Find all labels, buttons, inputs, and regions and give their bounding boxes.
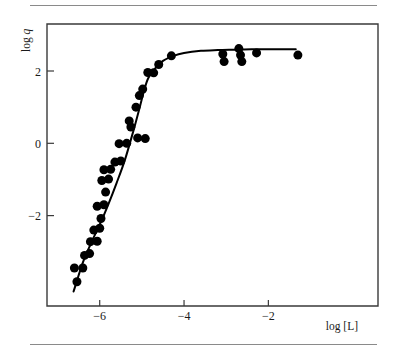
y-tick-label: −2 bbox=[28, 209, 41, 223]
data-point bbox=[78, 264, 87, 273]
data-point bbox=[126, 123, 135, 132]
plot-canvas: −6−4−2 20−2 log [L] log q bbox=[0, 0, 407, 355]
y-tick-label: 2 bbox=[35, 65, 41, 79]
x-tick-label: −4 bbox=[178, 309, 191, 323]
data-point bbox=[101, 188, 110, 197]
data-point bbox=[237, 57, 246, 66]
x-tick-label: −6 bbox=[93, 309, 106, 323]
data-point bbox=[104, 175, 113, 184]
x-axis-title: log [L] bbox=[326, 320, 358, 333]
data-point bbox=[72, 277, 81, 286]
data-point bbox=[252, 48, 261, 57]
data-point bbox=[99, 200, 108, 209]
y-tick-label: 0 bbox=[35, 137, 41, 151]
y-axis-ticks bbox=[47, 71, 54, 216]
data-point bbox=[95, 224, 104, 233]
x-tick-label: −2 bbox=[262, 309, 275, 323]
x-axis-ticks bbox=[100, 300, 269, 306]
data-point bbox=[93, 237, 102, 246]
y-axis-title-prefix: log bbox=[20, 34, 33, 52]
figure-container: −6−4−2 20−2 log [L] log q bbox=[0, 0, 407, 355]
x-axis-tick-labels: −6−4−2 bbox=[93, 309, 274, 323]
data-point bbox=[141, 134, 150, 143]
data-point bbox=[149, 68, 158, 77]
data-point bbox=[85, 249, 94, 258]
data-point bbox=[122, 139, 131, 148]
data-point bbox=[116, 157, 125, 166]
y-axis-title-group: log q bbox=[20, 28, 33, 52]
y-axis-title-symbol: q bbox=[20, 28, 33, 34]
plot-frame bbox=[47, 24, 378, 306]
y-axis-title: log q bbox=[20, 28, 33, 52]
data-point bbox=[293, 51, 302, 60]
data-point bbox=[96, 214, 105, 223]
data-point bbox=[154, 60, 163, 69]
data-point bbox=[220, 57, 229, 66]
y-axis-tick-labels: 20−2 bbox=[28, 65, 41, 224]
data-point-group bbox=[70, 44, 302, 286]
data-point bbox=[131, 103, 140, 112]
data-point bbox=[138, 85, 147, 94]
data-point bbox=[218, 50, 227, 59]
data-point bbox=[70, 264, 79, 273]
data-point bbox=[167, 51, 176, 60]
